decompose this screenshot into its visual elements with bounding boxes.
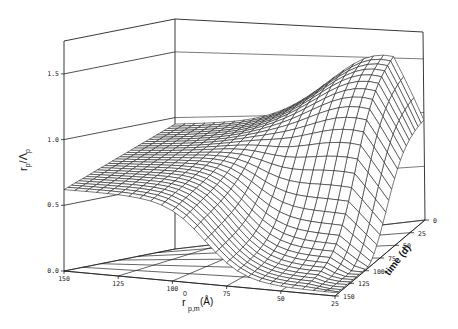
y-axis-label: time (d) [382, 242, 413, 277]
svg-text:100: 100 [167, 285, 179, 293]
svg-text:150: 150 [343, 293, 355, 301]
svg-text:0.0: 0.0 [47, 267, 59, 275]
svg-text:r: r [182, 296, 186, 308]
svg-text:25: 25 [418, 230, 426, 238]
surface-mesh [64, 55, 424, 293]
svg-text:time (d): time (d) [382, 242, 413, 277]
svg-text:0: 0 [433, 217, 437, 225]
svg-text:50: 50 [277, 295, 285, 303]
svg-text:1.5: 1.5 [47, 70, 59, 78]
svg-text:75: 75 [223, 290, 231, 298]
svg-text:0: 0 [183, 290, 187, 297]
svg-text:p,m: p,m [188, 305, 200, 313]
svg-text:0.5: 0.5 [47, 201, 59, 209]
surface-plot: 0.00.51.01.51501251007550250255075100125… [0, 0, 458, 329]
z-axis-label: rp/Λp [17, 149, 32, 171]
svg-text:(Å): (Å) [200, 295, 213, 307]
svg-text:150: 150 [58, 275, 70, 283]
svg-text:125: 125 [112, 280, 124, 288]
x-axis-label: r 0 p,m (Å) [182, 290, 213, 313]
svg-text:125: 125 [358, 280, 370, 288]
svg-text:1.0: 1.0 [47, 136, 59, 144]
svg-text:25: 25 [331, 300, 339, 308]
svg-text:rp/Λp: rp/Λp [17, 149, 32, 171]
